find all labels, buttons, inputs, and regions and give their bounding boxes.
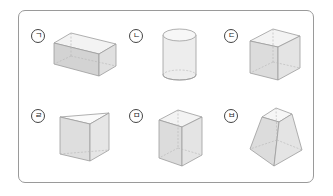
shape-cuboid [54,33,116,76]
shape-square-prism [159,110,202,166]
shapes-canvas [0,0,333,196]
shape-cylinder [163,29,196,80]
shape-frustum [250,108,302,166]
shape-cube [250,29,300,80]
shape-triangular-prism [60,113,109,161]
